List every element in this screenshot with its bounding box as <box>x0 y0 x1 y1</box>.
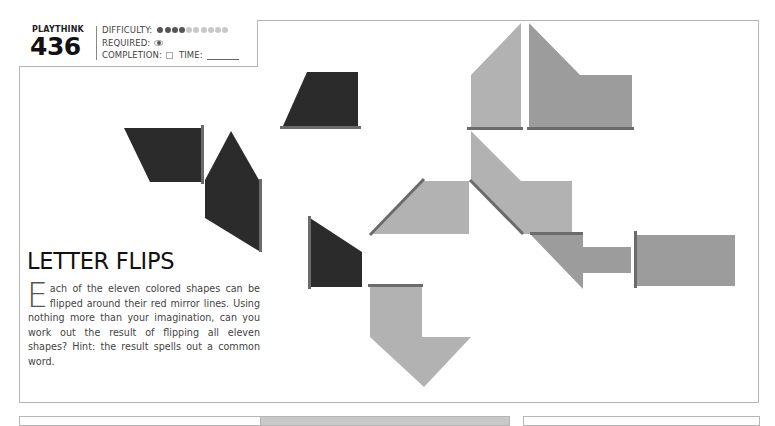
next-page-panel-middle <box>260 416 510 426</box>
shape-dark-trapezoid <box>283 72 358 126</box>
shape-mid-house-right <box>529 23 632 127</box>
next-page-panel-right <box>523 416 760 426</box>
shape-light-down-arrow <box>370 287 471 387</box>
shape-mid-arrow <box>531 235 631 289</box>
shape-light-trapezoid <box>373 181 469 234</box>
shape-dark-quad <box>310 218 362 287</box>
next-page-panel-left <box>19 416 261 426</box>
shape-mid-rectangle <box>637 235 735 286</box>
shape-light-diagonal <box>471 131 572 234</box>
shape-light-house-left <box>471 23 521 127</box>
shape-dark-parallelogram <box>124 128 201 182</box>
shape-dark-pentagon <box>205 131 259 251</box>
